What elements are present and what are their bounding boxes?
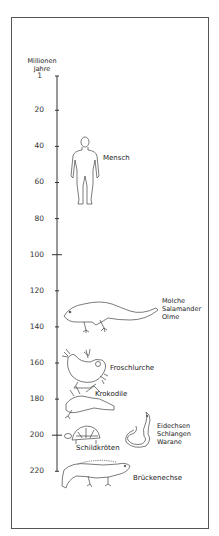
salamander-icon (64, 302, 158, 333)
label-salamander: Salamander (162, 305, 201, 313)
snake-icon (126, 412, 150, 447)
label-olme: Olme (162, 313, 179, 321)
timeline-illustration: Mensch Molche Salamander Olme Froschlurc… (0, 0, 219, 536)
label-schildkroeten: Schildkröten (76, 444, 120, 452)
label-eidechsen: Eidechsen (157, 422, 190, 430)
label-krokodile: Krokodile (95, 390, 127, 398)
turtle-icon (65, 426, 101, 444)
tuatara-icon (62, 460, 130, 488)
human-figure-icon (71, 137, 99, 204)
frog-icon (62, 349, 108, 388)
label-froschlurche: Froschlurche (110, 364, 154, 372)
label-schlangen: Schlangen (157, 430, 191, 438)
label-warane: Warane (157, 438, 182, 446)
label-mensch: Mensch (103, 154, 130, 162)
label-molche: Molche (162, 297, 185, 305)
label-brueckenechse: Brückenechse (133, 474, 182, 482)
time-axis (52, 76, 62, 471)
